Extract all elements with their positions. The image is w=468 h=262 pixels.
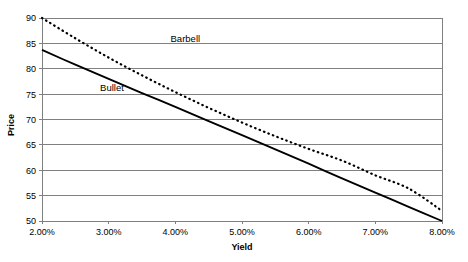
x-tick-label-7.00%: 7.00% (363, 227, 389, 237)
y-tick-label-80: 80 (26, 64, 36, 74)
x-axis-title: Yield (231, 242, 252, 252)
y-tick-label-65: 65 (26, 140, 36, 150)
y-tick-label-75: 75 (26, 90, 36, 100)
x-tick-label-3.00%: 3.00% (96, 227, 122, 237)
x-tick-label-4.00%: 4.00% (163, 227, 189, 237)
x-tick-label-2.00%: 2.00% (29, 227, 55, 237)
y-tick-label-70: 70 (26, 115, 36, 125)
y-tick-label-50: 50 (26, 216, 36, 226)
series-label-barbell: Barbell (171, 33, 201, 44)
y-tick-labels: 505560657075808590 (26, 13, 36, 226)
x-tick-label-6.00%: 6.00% (296, 227, 322, 237)
y-tick-label-85: 85 (26, 39, 36, 49)
y-tick-label-55: 55 (26, 191, 36, 201)
price-yield-chart: 505560657075808590 2.00%3.00%4.00%5.00%6… (0, 0, 468, 262)
x-tick-label-5.00%: 5.00% (229, 227, 255, 237)
x-tick-label-8.00%: 8.00% (429, 227, 455, 237)
y-tick-label-90: 90 (26, 13, 36, 23)
y-tick-label-60: 60 (26, 166, 36, 176)
series-label-bullet: Bullet (100, 82, 124, 93)
y-axis-title: Price (6, 114, 16, 136)
chart-canvas: 505560657075808590 2.00%3.00%4.00%5.00%6… (0, 0, 468, 262)
